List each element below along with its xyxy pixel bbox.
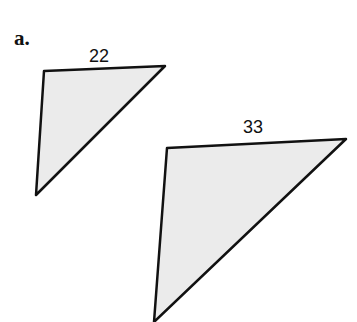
large-triangle-side-label: 33 [243, 117, 263, 138]
small-triangle [36, 66, 165, 195]
large-triangle [154, 139, 346, 322]
small-triangle-side-label: 22 [89, 46, 109, 67]
triangles-figure [0, 0, 357, 322]
